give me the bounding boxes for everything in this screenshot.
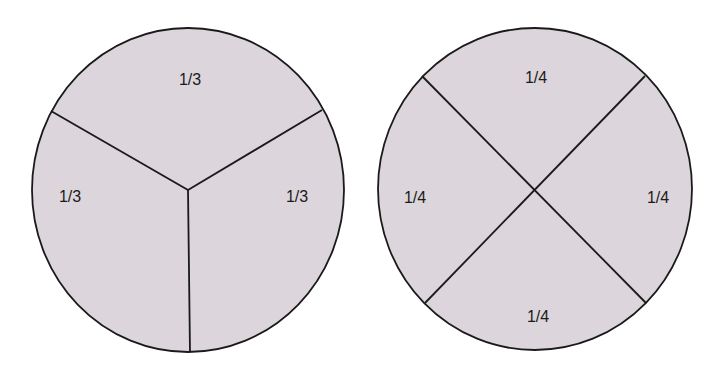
circle-quarters: 1/4 1/4 1/4 1/4	[378, 28, 692, 350]
circle-thirds: 1/3 1/3 1/3	[32, 28, 344, 352]
label-quarters-bottom: 1/4	[527, 308, 549, 325]
label-quarters-right: 1/4	[647, 189, 669, 206]
fraction-circles: 1/3 1/3 1/3 1/4 1/4 1/4 1/4	[0, 0, 721, 384]
label-quarters-left: 1/4	[404, 189, 426, 206]
label-thirds-right: 1/3	[286, 188, 308, 205]
label-thirds-left: 1/3	[59, 188, 81, 205]
label-quarters-top: 1/4	[525, 69, 547, 86]
label-thirds-top: 1/3	[179, 71, 201, 88]
